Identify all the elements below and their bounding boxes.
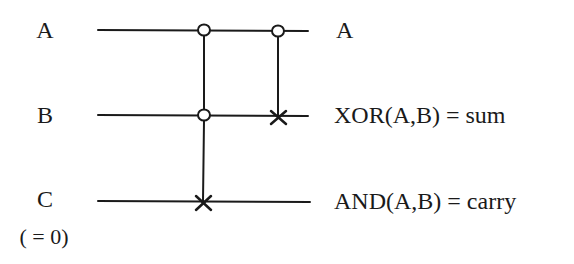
circuit-diagram	[0, 0, 574, 264]
toffoli-control-b-icon	[198, 110, 210, 121]
toffoli-connector-lower	[203, 121, 204, 201]
cnot-control-a-icon	[272, 26, 284, 37]
toffoli-control-a-icon	[198, 25, 210, 36]
